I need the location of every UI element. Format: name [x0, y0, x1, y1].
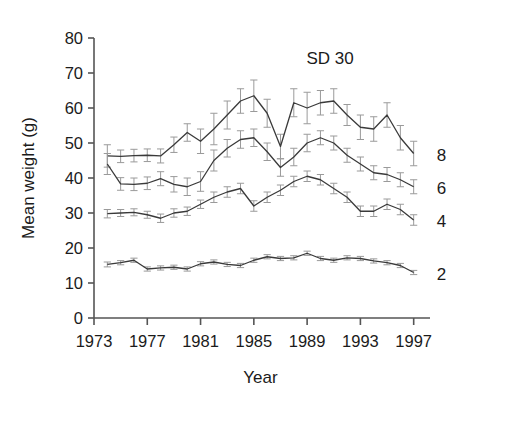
- line-chart: 0102030405060708019731977198119851989199…: [0, 0, 510, 422]
- y-axis-tick-label: 10: [65, 274, 83, 292]
- y-axis-tick-label: 70: [65, 64, 83, 82]
- x-axis-tick-label: 1997: [395, 332, 432, 350]
- series-line: [107, 138, 413, 187]
- y-axis-tick-label: 0: [74, 309, 83, 327]
- x-axis-tick-label: 1993: [342, 332, 379, 350]
- series-end-label-6: 6: [437, 179, 446, 198]
- series-2: 2: [104, 251, 446, 283]
- x-axis-tick-label: 1981: [182, 332, 219, 350]
- x-axis-tick-label: 1985: [235, 332, 272, 350]
- chart-figure: 0102030405060708019731977198119851989199…: [0, 0, 510, 422]
- series-end-label-8: 8: [437, 146, 446, 165]
- y-axis-tick-label: 80: [65, 29, 83, 47]
- series-line: [107, 96, 413, 157]
- y-axis-tick-label: 40: [65, 169, 83, 187]
- series-line: [107, 253, 413, 272]
- x-axis-tick-label: 1989: [289, 332, 326, 350]
- series-line: [107, 176, 413, 220]
- y-axis-tick-label: 50: [65, 134, 83, 152]
- x-axis-tick-label: 1973: [76, 332, 113, 350]
- x-axis-tick-label: 1977: [129, 332, 166, 350]
- series-end-label-4: 4: [437, 212, 446, 231]
- y-axis-tick-label: 30: [65, 204, 83, 222]
- x-axis-title: Year: [243, 368, 278, 387]
- y-axis-title: Mean weight (g): [19, 117, 38, 239]
- y-axis-tick-label: 20: [65, 239, 83, 257]
- y-axis-tick-label: 60: [65, 99, 83, 117]
- series-end-label-2: 2: [437, 265, 446, 284]
- chart-annotation: SD 30: [306, 49, 353, 68]
- series-8: 8: [104, 80, 446, 167]
- series-6: 6: [104, 129, 446, 198]
